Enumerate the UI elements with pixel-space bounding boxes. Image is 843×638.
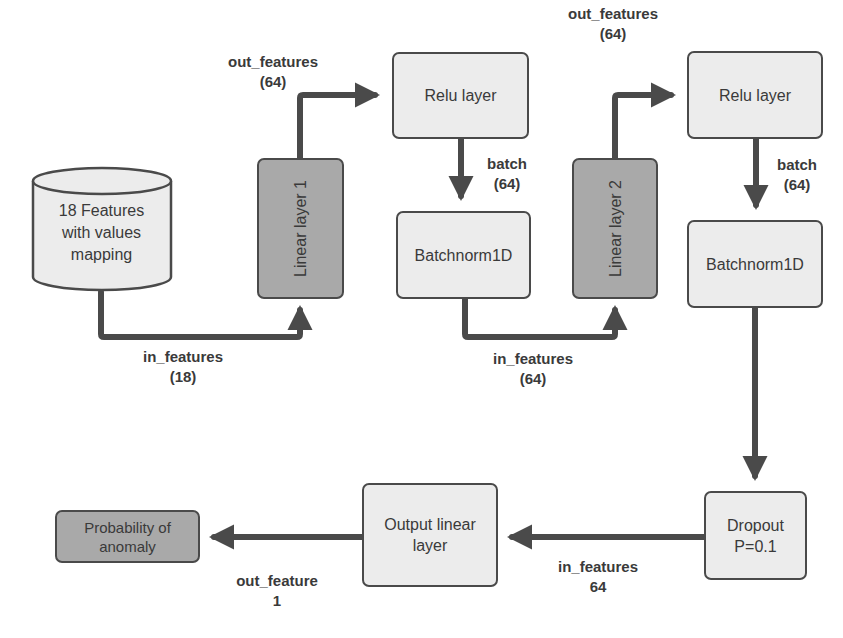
edge-label-batch-64-b: batch (64) — [767, 155, 827, 195]
edge-label-line: 1 — [222, 591, 332, 611]
dropout-node: Dropout P=0.1 — [704, 491, 807, 580]
probability-of-anomaly-node: Probability of anomaly — [55, 510, 200, 563]
batchnorm-2-label: Batchnorm1D — [706, 254, 804, 275]
edge-label-batch-64-a: batch (64) — [477, 154, 537, 194]
edge-linear1-to-relu1 — [300, 95, 375, 158]
edge-label-line: (18) — [128, 367, 238, 387]
batchnorm-2-node: Batchnorm1D — [687, 220, 823, 308]
edge-label-in-features-18: in_features (18) — [128, 347, 238, 387]
edge-label-out-feature-1: out_feature 1 — [222, 571, 332, 611]
input-features-node: 18 Features with values mapping — [33, 200, 170, 266]
relu-layer-1-node: Relu layer — [392, 52, 529, 139]
edge-label-out-features-64-b: out_features (64) — [553, 4, 673, 44]
probability-label-line-1: Probability of — [84, 518, 171, 537]
edge-label-line: in_features — [128, 347, 238, 367]
relu-layer-1-label: Relu layer — [424, 85, 496, 106]
edge-label-line: in_features — [543, 557, 653, 577]
edge-label-line: batch — [767, 155, 827, 175]
linear-layer-1-node: Linear layer 1 — [257, 158, 344, 299]
edge-label-line: batch — [477, 154, 537, 174]
edge-label-line: out_features — [213, 52, 333, 72]
edge-label-in-features-64-bottom: in_features 64 — [543, 557, 653, 597]
input-label-line-3: mapping — [33, 244, 170, 266]
linear-layer-2-label: Linear layer 2 — [605, 180, 626, 277]
output-linear-label-line-1: Output linear — [384, 514, 476, 535]
relu-layer-2-label: Relu layer — [719, 85, 791, 106]
edge-label-in-features-64: in_features (64) — [478, 349, 588, 389]
linear-layer-1-label: Linear layer 1 — [290, 180, 311, 277]
edge-label-line: (64) — [213, 72, 333, 92]
dropout-label-line-1: Dropout — [727, 515, 784, 536]
input-label-line-1: 18 Features — [33, 200, 170, 222]
edge-label-line: (64) — [478, 369, 588, 389]
edge-label-line: (64) — [553, 24, 673, 44]
output-linear-layer-node: Output linear layer — [362, 483, 498, 587]
output-linear-label-line-2: layer — [384, 535, 476, 556]
batchnorm-1-node: Batchnorm1D — [396, 211, 531, 299]
probability-label-line-2: anomaly — [84, 537, 171, 556]
edge-batchnorm1-to-linear2 — [465, 298, 615, 337]
edge-label-line: (64) — [767, 175, 827, 195]
edge-label-line: out_features — [553, 4, 673, 24]
edge-label-line: (64) — [477, 174, 537, 194]
edge-linear2-to-relu2 — [615, 95, 671, 158]
input-label-line-2: with values — [33, 222, 170, 244]
edge-label-out-features-64-a: out_features (64) — [213, 52, 333, 92]
dropout-label-line-2: P=0.1 — [727, 536, 784, 557]
edge-label-line: in_features — [478, 349, 588, 369]
batchnorm-1-label: Batchnorm1D — [415, 245, 513, 266]
edge-label-line: 64 — [543, 577, 653, 597]
linear-layer-2-node: Linear layer 2 — [572, 158, 658, 299]
relu-layer-2-node: Relu layer — [687, 51, 823, 139]
edge-label-line: out_feature — [222, 571, 332, 591]
